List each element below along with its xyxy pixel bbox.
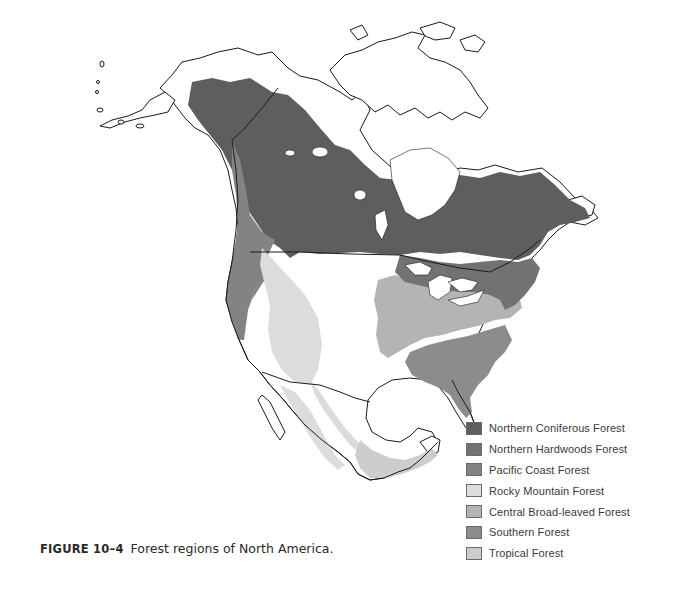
swatch-pacific-coast (466, 463, 482, 476)
legend-item-northern-coniferous: Northern Coniferous Forest (466, 418, 673, 439)
figure-caption-text: Forest regions of North America. (131, 541, 334, 556)
figure-label: FIGURE 10–4 (40, 542, 124, 556)
swatch-rocky-mountain (466, 484, 482, 497)
figure-caption: FIGURE 10–4Forest regions of North Ameri… (40, 541, 333, 556)
swatch-northern-hardwoods (466, 443, 482, 456)
swatch-northern-coniferous (466, 422, 482, 435)
legend-label: Southern Forest (489, 526, 569, 538)
legend-item-tropical: Tropical Forest (466, 543, 673, 564)
legend-item-central-broadleaved: Central Broad-leaved Forest (466, 501, 673, 522)
legend-item-northern-hardwoods: Northern Hardwoods Forest (466, 439, 673, 460)
swatch-tropical (466, 547, 482, 560)
legend-item-pacific-coast: Pacific Coast Forest (466, 460, 673, 481)
legend-label: Tropical Forest (489, 547, 563, 559)
legend-label: Northern Hardwoods Forest (489, 443, 627, 455)
legend-item-rocky-mountain: Rocky Mountain Forest (466, 480, 673, 501)
map-legend: Northern Coniferous Forest Northern Hard… (466, 418, 673, 564)
swatch-central-broadleaved (466, 505, 482, 518)
legend-item-southern: Southern Forest (466, 522, 673, 543)
swatch-southern (466, 526, 482, 539)
legend-label: Pacific Coast Forest (489, 464, 589, 476)
legend-label: Northern Coniferous Forest (489, 422, 625, 434)
legend-label: Rocky Mountain Forest (489, 485, 604, 497)
legend-label: Central Broad-leaved Forest (489, 506, 630, 518)
